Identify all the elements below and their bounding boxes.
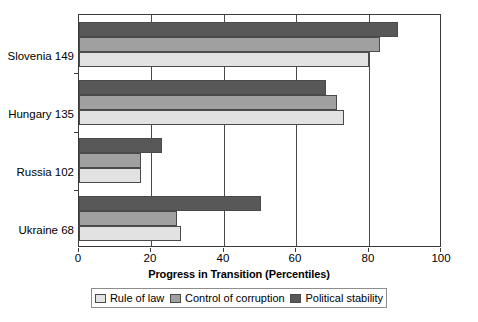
x-tick-label-40: 40 — [203, 252, 243, 264]
legend-swatch-icon-rule-of-law — [95, 294, 106, 303]
category-label-0: Slovenia 149 — [2, 50, 74, 62]
legend-label-political-stability: Political stability — [305, 292, 383, 304]
bar — [79, 95, 337, 110]
bar — [79, 80, 326, 95]
bar — [79, 110, 344, 125]
bar-group — [79, 132, 440, 190]
bar-group — [79, 73, 440, 131]
category-tick — [74, 132, 79, 133]
legend-item-political-stability: Political stability — [290, 292, 383, 304]
x-tick-label-100: 100 — [421, 252, 461, 264]
plot-area — [78, 14, 441, 247]
bar — [79, 153, 141, 168]
bar — [79, 168, 141, 183]
bar — [79, 37, 380, 52]
legend-item-rule-of-law: Rule of law — [95, 292, 164, 304]
x-tick-label-60: 60 — [275, 252, 315, 264]
bar — [79, 211, 177, 226]
category-axis: Slovenia 149 Hungary 135 Russia 102 Ukra… — [0, 14, 74, 247]
legend-label-control-of-corruption: Control of corruption — [185, 292, 285, 304]
x-tick-label-20: 20 — [130, 252, 170, 264]
bar — [79, 196, 261, 211]
x-axis-title: Progress in Transition (Percentiles) — [0, 268, 478, 280]
legend-item-control-of-corruption: Control of corruption — [170, 292, 285, 304]
x-tick-label-0: 0 — [58, 252, 98, 264]
bar-group — [79, 190, 440, 248]
category-label-3: Ukraine 68 — [2, 224, 74, 236]
bar — [79, 138, 162, 153]
x-tick-label-80: 80 — [348, 252, 388, 264]
category-label-2: Russia 102 — [2, 166, 74, 178]
category-tick — [74, 73, 79, 74]
category-label-1: Hungary 135 — [2, 108, 74, 120]
bar-chart: Slovenia 149 Hungary 135 Russia 102 Ukra… — [0, 0, 478, 322]
legend-swatch-icon-political-stability — [290, 294, 301, 303]
bar-group — [79, 15, 440, 73]
category-tick — [74, 190, 79, 191]
legend-swatch-icon-control-of-corruption — [170, 294, 181, 303]
bar — [79, 22, 398, 37]
bar — [79, 226, 181, 241]
legend-label-rule-of-law: Rule of law — [110, 292, 164, 304]
bar — [79, 52, 369, 67]
chart-legend: Rule of law Control of corruption Politi… — [91, 288, 387, 308]
